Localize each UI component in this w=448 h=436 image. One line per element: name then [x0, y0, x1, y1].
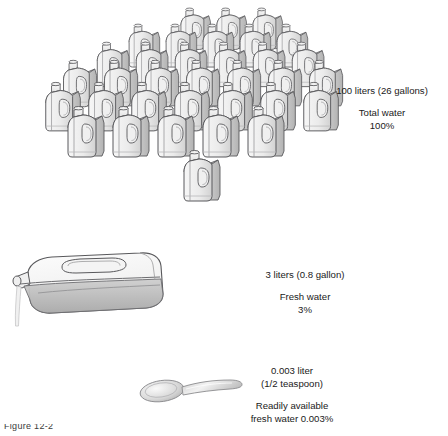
fresh-water-label: Fresh water: [238, 290, 372, 303]
readily-amount-line2: (1/2 teaspoon): [222, 377, 362, 390]
fresh-water-percent: 3%: [238, 303, 372, 316]
total-water-caption: 100 liters (26 gallons) Total water 100%: [318, 84, 446, 132]
pouring-jug-illustration: [0, 250, 448, 350]
total-water-amount: 100 liters (26 gallons): [318, 84, 446, 97]
readily-amount-line1: 0.003 liter: [222, 364, 362, 377]
total-water-percent: 100%: [318, 119, 446, 132]
fresh-water-caption: 3 liters (0.8 gallon) Fresh water 3%: [238, 268, 372, 316]
single-jug-highlight: [184, 151, 220, 202]
bottom-clipped-caption: Figure 12-2: [0, 424, 448, 436]
readily-available-caption: 0.003 liter (1/2 teaspoon) Readily avail…: [222, 364, 362, 425]
readily-label-line1: Readily available: [222, 399, 362, 412]
tilted-jug-body: [13, 253, 163, 313]
water-availability-figure: 100 liters (26 gallons) Total water 100%…: [0, 0, 448, 436]
fresh-water-amount: 3 liters (0.8 gallon): [238, 268, 372, 281]
jug-grid-rows: [46, 8, 343, 157]
total-water-label: Total water: [318, 106, 446, 119]
water-stream: [15, 286, 21, 326]
bottom-caption-text: Figure 12-2: [4, 424, 53, 431]
